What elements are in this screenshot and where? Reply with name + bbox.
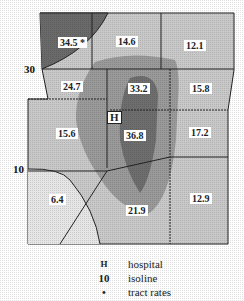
hospital-marker: H	[107, 111, 122, 124]
legend: H hospital 10 isoline • tract rates	[86, 257, 171, 299]
legend-label: hospital	[128, 258, 163, 270]
tract-rate-label: 36.8	[124, 130, 146, 141]
tract-rate-label: 15.8	[190, 83, 212, 94]
legend-label: tract rates	[128, 286, 171, 298]
isoline-symbol: 10	[86, 272, 122, 284]
tract-rate-label: 15.6	[56, 128, 78, 139]
tract-rate-label: 24.7	[61, 81, 83, 92]
isoline-label: 10	[13, 163, 24, 175]
legend-item: • tract rates	[86, 285, 171, 299]
legend-label: isoline	[128, 272, 157, 284]
tract-rate-label: 34.5 *	[58, 37, 87, 48]
tract-rate-label: 33.2	[128, 83, 150, 94]
isoline-label: 30	[24, 63, 35, 75]
tract-rate-label: 14.6	[116, 36, 138, 47]
tract-rate-label: 21.9	[126, 205, 148, 216]
legend-item: H hospital	[86, 257, 171, 271]
tract-rate-label: 6.4	[49, 194, 66, 205]
hospital-symbol: H	[86, 259, 122, 269]
tract-rate-label: 12.1	[184, 40, 206, 51]
legend-item: 10 isoline	[86, 271, 171, 285]
dot-icon: •	[86, 286, 122, 298]
tract-rate-label: 12.9	[190, 193, 212, 204]
tract-rate-label: 17.2	[189, 127, 211, 138]
